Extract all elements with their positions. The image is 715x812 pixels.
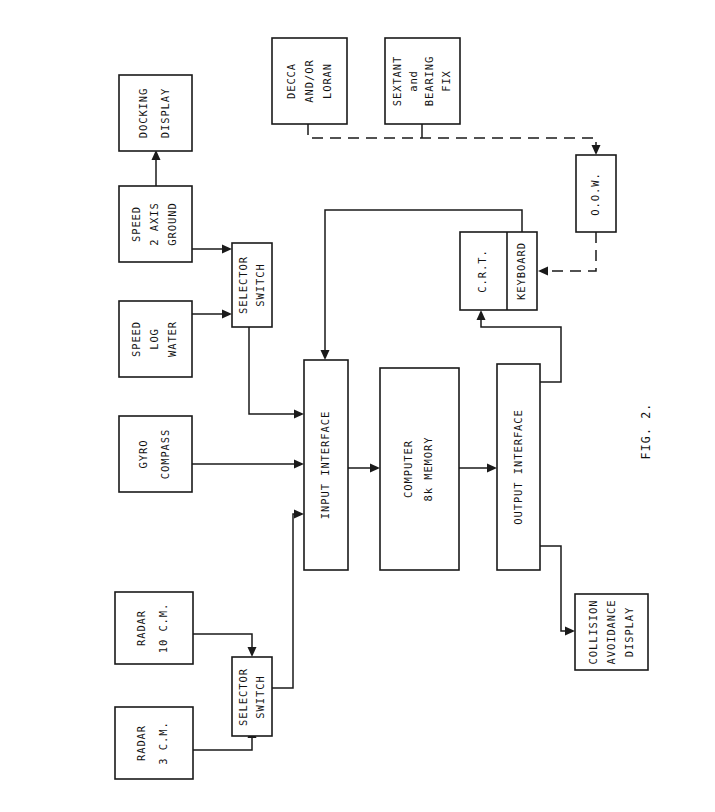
block-oow-label: O.O.W. — [589, 172, 601, 215]
block-decca-and-or-loran[interactable]: DECCA AND/OR LORAN — [272, 38, 347, 124]
block-radar-3-cm-label-1: RADAR — [135, 725, 147, 761]
block-computer[interactable]: COMPUTER 8k MEMORY — [380, 368, 459, 570]
arrowhead-selector-top-a — [222, 245, 232, 254]
block-radar-10-cm-label-2: 10 C.M. — [157, 603, 169, 654]
block-docking-display-rect — [119, 75, 192, 151]
block-selector-switch-bottom[interactable]: SELECTOR SWITCH — [232, 657, 272, 736]
arrowhead-input-interface-c — [294, 510, 304, 519]
figure-caption: FIG. 2. — [639, 403, 653, 460]
arrowhead-selector-top-b — [222, 310, 232, 319]
block-selector-switch-top[interactable]: SELECTOR SWITCH — [232, 243, 272, 327]
block-input-interface-label: INPUT INTERFACE — [319, 411, 331, 519]
arrowhead-input-interface-top — [321, 350, 330, 360]
block-selector-switch-bottom-label-1: SELECTOR — [237, 668, 249, 726]
block-sextant-and-bearing-fix-label-3: BEARING — [423, 56, 435, 107]
block-speed-log-water-label-2: LOG — [148, 328, 160, 350]
arrowhead-output-interface — [487, 464, 497, 473]
connection-oow-to-keyboard — [546, 232, 596, 271]
block-sextant-and-bearing-fix[interactable]: SEXTANT and BEARING FIX — [385, 38, 460, 124]
block-collision-avoidance-display-label-1: COLLISION — [587, 600, 599, 665]
block-sextant-and-bearing-fix-label-2: and — [407, 70, 419, 92]
block-speed-log-water-label-3: WATER — [166, 321, 178, 357]
block-speed-2-axis-ground-label-1: SPEED — [130, 206, 142, 242]
arrowhead-collision-display — [565, 627, 575, 636]
block-speed-2-axis-ground-label-3: GROUND — [166, 202, 178, 245]
block-oow[interactable]: O.O.W. — [576, 155, 616, 232]
block-computer-label-2: 8k MEMORY — [422, 437, 434, 502]
arrowhead-computer — [370, 464, 380, 473]
block-sextant-and-bearing-fix-label-1: SEXTANT — [391, 56, 403, 107]
block-input-interface[interactable]: INPUT INTERFACE — [304, 360, 348, 570]
block-crt-keyboard[interactable]: C.R.T. KEYBOARD — [460, 232, 537, 310]
block-speed-log-water[interactable]: SPEED LOG WATER — [119, 301, 192, 377]
block-output-interface[interactable]: OUTPUT INTERFACE — [497, 364, 540, 570]
connection-selector-bottom-to-input — [272, 514, 296, 688]
block-decca-and-or-loran-label-2: AND/OR — [303, 59, 315, 102]
block-sextant-and-bearing-fix-label-4: FIX — [440, 70, 452, 92]
block-decca-and-or-loran-label-1: DECCA — [285, 63, 297, 99]
block-docking-display-label-2: DISPLAY — [159, 88, 171, 139]
block-selector-switch-top-label-1: SELECTOR — [237, 256, 249, 314]
connection-radar3-to-selector-bottom — [193, 736, 252, 750]
block-speed-log-water-label-1: SPEED — [130, 321, 142, 357]
block-speed-2-axis-ground[interactable]: SPEED 2 AXIS GROUND — [119, 186, 192, 262]
arrowhead-input-interface-a — [294, 410, 304, 419]
arrowhead-oow — [592, 145, 601, 155]
block-gyro-compass-label-1: GYRO — [137, 440, 149, 469]
block-radar-3-cm-rect — [115, 707, 193, 779]
block-collision-avoidance-display-label-2: AVOIDANCE — [605, 600, 617, 665]
block-selector-switch-top-label-2: SWITCH — [254, 263, 266, 306]
block-speed-2-axis-ground-label-2: 2 AXIS — [148, 202, 160, 245]
connection-output-to-collision — [540, 546, 567, 631]
connection-selector-top-to-input — [249, 327, 296, 414]
block-docking-display-label-1: DOCKING — [137, 88, 149, 139]
block-output-interface-label: OUTPUT INTERFACE — [512, 409, 524, 525]
block-gyro-compass[interactable]: GYRO COMPASS — [119, 416, 192, 492]
block-gyro-compass-rect — [119, 416, 192, 492]
patent-figure-page: DOCKING DISPLAY SPEED 2 AXIS GROUND SPEE… — [0, 0, 715, 812]
block-keyboard-label: KEYBOARD — [515, 242, 527, 300]
block-computer-label-1: COMPUTER — [402, 440, 414, 498]
block-diagram: DOCKING DISPLAY SPEED 2 AXIS GROUND SPEE… — [0, 0, 715, 812]
block-radar-10-cm-label-1: RADAR — [135, 610, 147, 646]
block-crt-label: C.R.T. — [476, 249, 488, 292]
arrowhead-keyboard — [538, 267, 548, 276]
arrowhead-selector-bottom-a — [248, 647, 257, 657]
block-radar-10-cm-rect — [115, 592, 193, 664]
arrowhead-crt — [477, 310, 486, 320]
block-decca-and-or-loran-label-3: LORAN — [321, 63, 333, 99]
block-radar-3-cm[interactable]: RADAR 3 C.M. — [115, 707, 193, 779]
block-radar-3-cm-label-2: 3 C.M. — [157, 721, 169, 764]
block-radar-10-cm[interactable]: RADAR 10 C.M. — [115, 592, 193, 664]
block-collision-avoidance-display-label-3: DISPLAY — [623, 607, 635, 658]
block-docking-display[interactable]: DOCKING DISPLAY — [119, 75, 192, 151]
arrowhead-input-interface-b — [294, 460, 304, 469]
connection-radar10-to-selector-bottom — [193, 634, 252, 649]
block-gyro-compass-label-2: COMPASS — [159, 429, 171, 480]
block-collision-avoidance-display[interactable]: COLLISION AVOIDANCE DISPLAY — [575, 594, 648, 670]
connection-decca-to-oow — [308, 124, 596, 147]
block-selector-switch-bottom-label-2: SWITCH — [254, 675, 266, 718]
block-computer-rect — [380, 368, 459, 570]
